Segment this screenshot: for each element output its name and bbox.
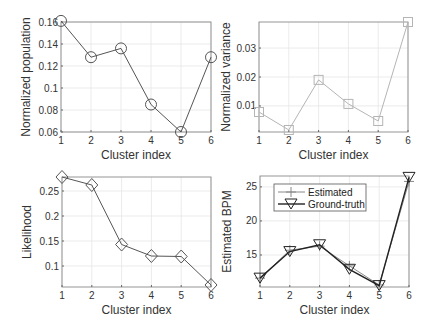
x-tick-label: 1 xyxy=(59,290,65,301)
legend: EstimatedGround-truth xyxy=(274,184,366,211)
x-tick-label: 5 xyxy=(376,290,382,301)
legend-label: Ground-truth xyxy=(308,199,365,210)
grid xyxy=(62,177,211,287)
x-tick-label: 2 xyxy=(287,290,293,301)
y-tick-label: 0.02 xyxy=(237,72,257,83)
y-tick-label: 0.12 xyxy=(39,61,59,72)
y-tick-label: 0.1 xyxy=(45,261,59,272)
grid xyxy=(259,22,408,132)
y-tick-label: 0.15 xyxy=(40,236,60,247)
x-tick-label: 6 xyxy=(208,135,214,146)
series-variance xyxy=(255,18,413,135)
x-tick-label: 4 xyxy=(346,135,352,146)
x-tick-label: 1 xyxy=(256,135,262,146)
x-axis-label: Cluster index xyxy=(299,303,369,317)
y-tick-label: 0.08 xyxy=(39,105,59,116)
series-likelihood xyxy=(56,171,217,292)
x-tick-label: 4 xyxy=(148,135,154,146)
y-tick-label: 0.1 xyxy=(44,83,58,94)
subplot-likelihood: 1234560.10.150.20.25Cluster indexLikelih… xyxy=(20,171,217,318)
x-tick-label: 2 xyxy=(88,135,94,146)
x-axis-label: Cluster index xyxy=(101,303,171,317)
y-axis-label: Normalized variance xyxy=(219,22,233,132)
x-tick-label: 5 xyxy=(375,135,381,146)
x-tick-label: 1 xyxy=(257,290,263,301)
y-tick-label: 0.01 xyxy=(237,100,257,111)
y-axis-label: Likelihood xyxy=(20,205,34,259)
series-population xyxy=(56,15,217,137)
y-tick-label: 15 xyxy=(246,249,258,260)
x-tick-label: 6 xyxy=(406,290,412,301)
y-tick-label: 0.2 xyxy=(45,211,59,222)
x-tick-label: 3 xyxy=(317,290,323,301)
figure: 1234560.060.080.10.120.140.16Cluster ind… xyxy=(0,0,434,330)
x-tick-label: 6 xyxy=(405,135,411,146)
y-tick-label: 0.25 xyxy=(40,186,60,197)
x-axis-label: Cluster index xyxy=(298,148,368,162)
y-axis-label: Estimated BPM xyxy=(220,190,234,273)
y-tick-label: 25 xyxy=(246,181,258,192)
x-tick-label: 2 xyxy=(89,290,95,301)
x-tick-label: 2 xyxy=(286,135,292,146)
x-tick-label: 1 xyxy=(58,135,64,146)
subplot-bpm: 123456152025Cluster indexEstimated BPMEs… xyxy=(220,172,415,317)
y-axis-label: Normalized population xyxy=(19,17,33,136)
x-tick-label: 3 xyxy=(316,135,322,146)
subplot-population: 1234560.060.080.10.120.140.16Cluster ind… xyxy=(19,15,217,162)
x-tick-label: 3 xyxy=(118,135,124,146)
y-tick-label: 0.14 xyxy=(39,39,59,50)
y-tick-label: 0.06 xyxy=(39,127,59,138)
x-tick-label: 3 xyxy=(119,290,125,301)
legend-label: Estimated xyxy=(308,187,352,198)
axes-box xyxy=(62,177,211,287)
x-tick-label: 4 xyxy=(347,290,353,301)
y-tick-label: 0.03 xyxy=(237,43,257,54)
x-tick-label: 4 xyxy=(149,290,155,301)
subplot-variance: 1234560.010.020.03Cluster indexNormalize… xyxy=(219,18,413,163)
y-tick-label: 20 xyxy=(246,215,258,226)
x-tick-label: 5 xyxy=(178,290,184,301)
x-axis-label: Cluster index xyxy=(101,148,171,162)
